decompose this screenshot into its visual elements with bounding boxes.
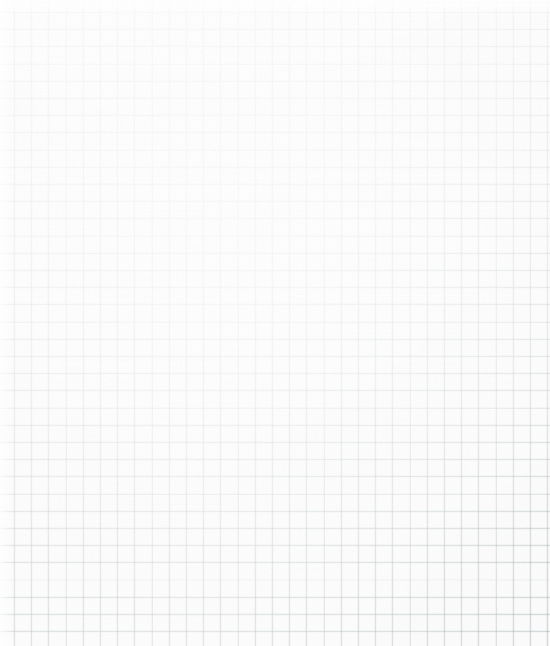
graph-paper-sheet <box>0 0 550 646</box>
graph-grid-ink-bleed <box>0 0 550 646</box>
